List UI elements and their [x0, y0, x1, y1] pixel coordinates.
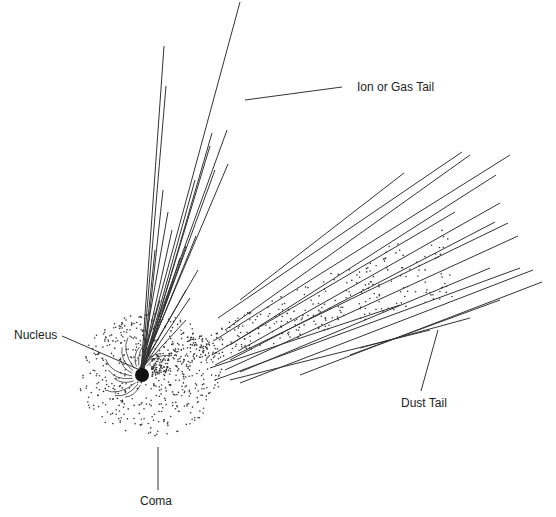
comet-nucleus	[135, 368, 149, 382]
label-ion-tail: Ion or Gas Tail	[357, 80, 434, 94]
label-coma: Coma	[140, 494, 172, 508]
dust-tail-streamers	[210, 152, 542, 383]
label-leader-lines	[62, 87, 438, 490]
ion-tail-streamers	[140, 2, 240, 369]
label-nucleus: Nucleus	[14, 328, 57, 342]
label-dust-tail: Dust Tail	[401, 396, 447, 410]
comet-diagram	[0, 0, 556, 517]
